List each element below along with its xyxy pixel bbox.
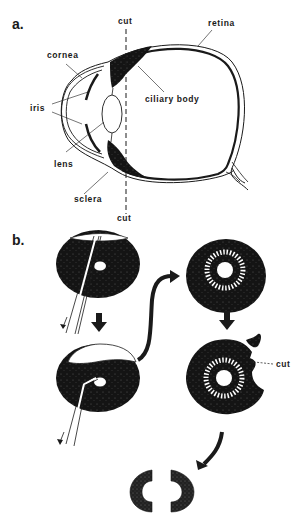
pupil-3 — [217, 262, 233, 278]
eyecup-ciliary-ring — [186, 239, 266, 313]
label-cut-b: cut — [276, 359, 291, 369]
cut-pointer — [254, 362, 273, 364]
iris-lower — [86, 124, 100, 152]
eyecup-with-cut — [186, 334, 273, 415]
pupil-4 — [216, 370, 232, 386]
pupil — [94, 262, 106, 271]
lifted-cornea — [68, 344, 136, 364]
ciliary-body-lower — [107, 140, 148, 178]
retina-outline — [115, 49, 239, 180]
eye-dissection-diagram: a. cut retina cornea iris — [0, 0, 307, 526]
curved-arrow-icon — [138, 270, 180, 360]
down-arrow-icon — [91, 313, 107, 332]
panel-b-label: b. — [12, 232, 24, 248]
ciliary-half-left — [130, 470, 152, 512]
ciliary-halves — [130, 470, 194, 512]
label-ciliary-body: ciliary body — [145, 94, 199, 104]
label-lens: lens — [54, 159, 73, 169]
small-arrowhead-icon-2 — [57, 439, 63, 445]
ciliary-half-right — [171, 470, 194, 512]
optic-nerve — [226, 162, 248, 182]
label-cut-bottom: cut — [117, 213, 132, 223]
label-retina: retina — [208, 18, 235, 28]
label-sclera: sclera — [74, 194, 102, 204]
eye-cross-section — [61, 29, 248, 214]
small-arrowhead-icon — [60, 324, 66, 329]
label-cut-top: cut — [118, 16, 133, 26]
cut-flap — [246, 334, 261, 348]
label-iris: iris — [30, 103, 45, 113]
label-cornea: cornea — [47, 50, 78, 60]
curved-arrow-icon-2 — [196, 432, 222, 470]
cornea — [62, 66, 105, 158]
ciliary-body-upper — [110, 46, 152, 88]
panel-a-label: a. — [12, 16, 24, 32]
sclera-outline — [61, 45, 248, 190]
eyecup-opened — [56, 344, 140, 446]
lens — [102, 95, 122, 133]
down-arrow-icon-2 — [219, 311, 235, 330]
iris-upper — [86, 74, 98, 100]
zonule-lower — [111, 133, 112, 142]
zonule-upper — [112, 88, 113, 95]
